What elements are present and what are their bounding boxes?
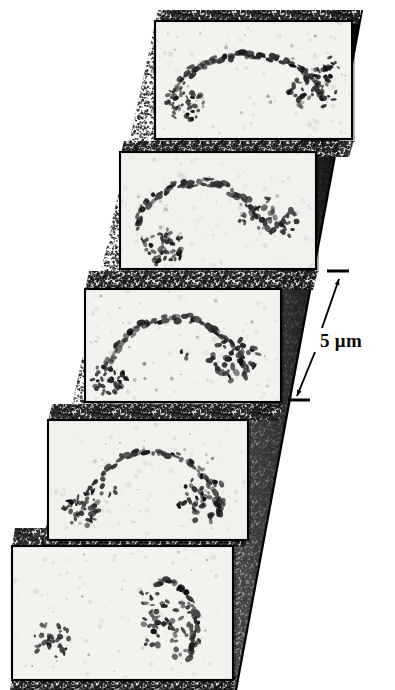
arrowhead-up	[335, 279, 340, 286]
stipple-band-3	[48, 404, 283, 421]
scale-bar-label: 5 μm	[320, 331, 362, 350]
scale-arrow-upper	[322, 279, 339, 328]
panel-plate	[155, 21, 352, 139]
optical-section-5	[12, 545, 237, 683]
optical-section-3	[85, 289, 284, 405]
optical-section-1	[155, 20, 355, 142]
optical-section-2	[118, 150, 319, 272]
scale-arrow-lower	[297, 352, 315, 396]
optical-section-4	[48, 419, 251, 543]
arrowhead-down	[297, 390, 302, 397]
stipple-band-2	[85, 271, 318, 290]
panel-plate	[48, 420, 248, 540]
